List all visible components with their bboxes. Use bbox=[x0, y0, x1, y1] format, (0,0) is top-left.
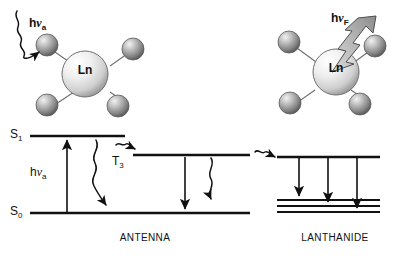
arrow-nonradiative-t3-s0 bbox=[210, 158, 213, 199]
photon-emitted-label: hνF bbox=[331, 12, 349, 27]
left-ln-label: Ln bbox=[63, 64, 107, 76]
arrow-nonradiative-s1-s0 bbox=[93, 140, 106, 205]
absorption-energy-label: hνa bbox=[30, 166, 46, 181]
level-label-t3: T3 bbox=[112, 155, 124, 170]
figure-canvas: hνa hνF Ln Ln S1 S0 T3 hνa ANTENNA LANTH… bbox=[0, 0, 396, 260]
caption-lanthanide: LANTHANIDE bbox=[280, 233, 390, 243]
caption-antenna: ANTENNA bbox=[95, 233, 195, 243]
process-arrows-group bbox=[67, 140, 357, 212]
arrow-intersystem-crossing-s1-t3 bbox=[116, 144, 135, 149]
diagram-svg bbox=[0, 0, 396, 260]
arrow-energy-transfer-t3-lanthanide bbox=[255, 151, 275, 157]
photon-absorbed-label: hνa bbox=[29, 17, 46, 32]
right-ln-label: Ln bbox=[314, 62, 358, 74]
level-label-s0: S0 bbox=[10, 205, 22, 220]
level-label-s1: S1 bbox=[10, 128, 22, 143]
